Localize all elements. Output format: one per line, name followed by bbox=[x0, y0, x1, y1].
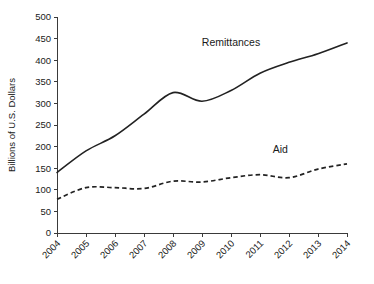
y-axis-title: Billions of U.S. Dollars bbox=[6, 78, 17, 172]
y-tick-label: 200 bbox=[35, 141, 51, 152]
x-tick-label: 2004 bbox=[40, 238, 63, 261]
x-tick-label: 2007 bbox=[127, 238, 150, 261]
y-axis-title-label: Billions of U.S. Dollars bbox=[6, 78, 17, 172]
x-tick-label: 2012 bbox=[272, 238, 295, 261]
chart-container: Billions of U.S. Dollars 050100150200250… bbox=[0, 0, 374, 284]
x-tick-label: 2013 bbox=[301, 238, 324, 261]
series-line-remittances bbox=[57, 43, 347, 173]
y-tick-label: 450 bbox=[35, 33, 51, 44]
data-series-group bbox=[57, 43, 347, 199]
x-tick-label: 2011 bbox=[243, 238, 265, 260]
axis-frame bbox=[57, 17, 347, 233]
series-label-aid: Aid bbox=[273, 143, 288, 155]
series-annotations: RemittancesAid bbox=[202, 36, 288, 155]
series-line-aid bbox=[57, 164, 347, 199]
x-tick-label: 2008 bbox=[156, 238, 179, 261]
x-tick-label: 2005 bbox=[69, 238, 92, 261]
y-tick-label: 50 bbox=[40, 206, 51, 217]
y-tick-label: 150 bbox=[35, 163, 51, 174]
y-tick-label: 100 bbox=[35, 184, 51, 195]
y-tick-label: 400 bbox=[35, 55, 51, 66]
line-chart: Billions of U.S. Dollars 050100150200250… bbox=[0, 0, 374, 284]
y-tick-label: 300 bbox=[35, 98, 51, 109]
y-tick-label: 350 bbox=[35, 76, 51, 87]
x-tick-label: 2010 bbox=[214, 238, 237, 261]
x-axis-ticks: 2004200520062007200820092010201120122013… bbox=[40, 233, 353, 260]
x-tick-label: 2006 bbox=[98, 238, 121, 261]
x-tick-label: 2009 bbox=[185, 238, 208, 261]
y-tick-label: 0 bbox=[46, 227, 51, 238]
y-tick-label: 250 bbox=[35, 119, 51, 130]
series-label-remittances: Remittances bbox=[202, 36, 260, 48]
x-tick-label: 2014 bbox=[330, 238, 353, 261]
y-tick-label: 500 bbox=[35, 11, 51, 22]
y-axis-ticks: 050100150200250300350400450500 bbox=[35, 11, 57, 238]
